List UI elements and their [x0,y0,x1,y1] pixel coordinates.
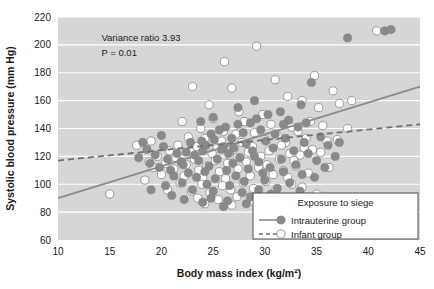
data-point [292,161,300,169]
x-tick-label: 35 [311,246,323,257]
data-point [214,195,222,203]
data-point [164,155,172,163]
data-point [372,27,380,35]
data-point [277,155,285,163]
y-tick-label: 200 [34,39,51,50]
data-point [276,108,284,116]
data-point [344,34,352,42]
data-point [203,180,211,188]
data-point [226,182,234,190]
data-point [271,76,279,84]
data-point [157,131,165,139]
y-tick-label: 140 [34,123,51,134]
data-point [201,168,209,176]
legend-title: Exposure to siege [297,197,373,208]
data-point [298,170,306,178]
chart-figure: 1015202530354045 60801001201401601802002… [0,0,434,289]
data-point [255,158,263,166]
data-point [178,117,186,125]
data-point [257,126,265,134]
data-point [215,126,223,134]
legend-label: Intrauterine group [291,215,366,226]
x-tick-label: 30 [259,246,271,257]
data-point [312,156,320,164]
data-point [252,42,260,50]
y-tick-label: 100 [34,179,51,190]
data-point [192,173,200,181]
scatter-plot-svg: 1015202530354045 60801001201401601802002… [0,0,434,289]
legend-label: Infant group [291,229,342,240]
data-point [335,99,343,107]
data-point [205,101,213,109]
data-point [218,182,226,190]
data-point [304,149,312,157]
data-point [317,148,325,156]
data-point [329,87,337,95]
data-point [267,120,275,128]
data-point [147,186,155,194]
data-point [182,148,190,156]
data-point [244,165,252,173]
y-axis-title: Systolic blood pressure (mm Hg) [4,46,16,211]
data-point [269,144,277,152]
data-point [186,138,194,146]
data-point [188,83,196,91]
data-point [197,117,205,125]
data-point [199,198,207,206]
data-point [315,103,323,111]
data-point [297,101,305,109]
x-tick-label: 15 [104,246,116,257]
data-point [173,149,181,157]
data-point [321,163,329,171]
x-tick-label: 40 [363,246,375,257]
x-axis-title: Body mass index (kg/m²) [177,267,301,279]
data-point [284,92,292,100]
data-point [266,163,274,171]
y-tick-label: 120 [34,151,51,162]
data-point [331,152,339,160]
data-point [286,179,294,187]
data-point [239,129,247,137]
data-point [139,138,147,146]
data-point [213,155,221,163]
data-point [211,175,219,183]
legend-marker-intrauterine [277,216,285,224]
y-tick-label: 180 [34,67,51,78]
annotation-text: Variance ratio 3.93 [101,32,180,43]
data-point [250,97,258,105]
data-point [220,58,228,66]
data-point [264,110,272,118]
y-tick-label: 80 [40,207,52,218]
x-tick-label: 25 [208,246,220,257]
data-point [238,189,246,197]
data-point [290,147,298,155]
data-point [324,141,332,149]
data-point [195,156,203,164]
data-point [310,173,318,181]
data-point [240,177,248,185]
data-point [106,190,114,198]
data-point [168,191,176,199]
data-point [261,176,269,184]
data-point [234,103,242,111]
data-point [222,166,230,174]
y-tick-label: 60 [40,235,52,246]
data-point [279,168,287,176]
data-point [228,84,236,92]
data-point [184,169,192,177]
data-point [387,25,395,33]
data-point [319,122,327,130]
data-point [188,186,196,194]
data-point [262,137,270,145]
y-tick-label: 220 [34,12,51,23]
data-point [141,176,149,184]
legend-marker-infant [277,230,285,238]
data-point [210,136,218,144]
data-point [180,195,188,203]
data-point [246,119,254,127]
data-point [335,138,343,146]
data-point [242,200,250,208]
data-point [300,138,308,146]
data-point [146,159,154,167]
data-point [236,154,244,162]
